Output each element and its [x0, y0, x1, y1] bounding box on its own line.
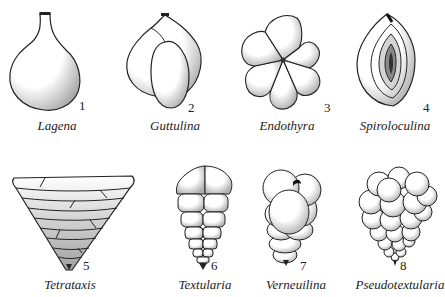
- tetrataxis-illustration-icon: [0, 150, 140, 275]
- verneuilina-illustration-icon: [255, 150, 335, 275]
- specimen-name: Pseudotextularia: [345, 277, 445, 293]
- pseudotextularia-illustration-icon: [355, 150, 445, 275]
- specimen-number: 1: [79, 98, 86, 114]
- specimen-lagena: 1 Lagena: [0, 0, 110, 145]
- specimen-endothyra: 3 Endothyra: [225, 0, 335, 145]
- specimen-verneuilina: 7 Verneuilina: [255, 150, 335, 297]
- guttulina-illustration-icon: [115, 0, 225, 120]
- specimen-number: 7: [300, 258, 307, 274]
- specimen-number: 4: [423, 100, 430, 116]
- specimen-number: 8: [400, 258, 407, 274]
- specimen-guttulina: 2 Guttulina: [115, 0, 225, 145]
- specimen-name: Verneuilina: [251, 277, 341, 293]
- specimen-number: 5: [83, 258, 90, 274]
- specimen-number: 6: [211, 258, 218, 274]
- endothyra-illustration-icon: [225, 0, 335, 120]
- specimen-name: Tetrataxis: [30, 277, 110, 293]
- specimen-spiroloculina: 4 Spiroloculina: [335, 0, 445, 145]
- specimen-textularia: 6 Textularia: [165, 150, 245, 297]
- specimen-tetrataxis: 5 Tetrataxis: [0, 150, 140, 297]
- specimen-name: Spiroloculina: [345, 118, 445, 134]
- specimen-number: 3: [324, 100, 331, 116]
- specimen-name: Guttulina: [135, 118, 215, 134]
- specimen-number: 2: [188, 100, 195, 116]
- specimen-name: Textularia: [165, 277, 245, 293]
- specimen-pseudotextularia: 8 Pseudotextularia: [355, 150, 445, 297]
- specimen-name: Lagena: [22, 118, 92, 134]
- specimen-name: Endothyra: [247, 118, 327, 134]
- lagena-illustration-icon: [0, 0, 110, 120]
- textularia-illustration-icon: [165, 150, 245, 275]
